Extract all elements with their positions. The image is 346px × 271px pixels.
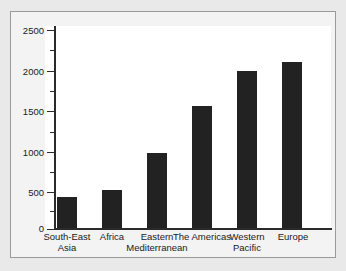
- x-label-line1: Western: [229, 231, 264, 242]
- x-axis-spine: [54, 228, 332, 230]
- x-label-line2: Pacific: [218, 242, 276, 253]
- bar-western-pacific: [237, 71, 257, 229]
- y-tick-mark-2500: [47, 30, 54, 31]
- y-minor-tick-1250: [50, 132, 54, 133]
- bar-eastern-mediterranean: [147, 153, 167, 229]
- y-minor-tick-1750: [50, 91, 54, 92]
- x-label-line1: Europe: [278, 231, 309, 242]
- y-minor-tick-750: [50, 172, 54, 173]
- y-tick-mark-0: [47, 229, 54, 230]
- y-minor-tick-250: [50, 211, 54, 212]
- y-tick-mark-500: [47, 192, 54, 193]
- bar-south-east-asia: [57, 197, 77, 230]
- y-tick-mark-1500: [47, 111, 54, 112]
- x-label-line2: Mediterranean: [121, 242, 193, 253]
- y-axis-spine: [54, 26, 56, 230]
- y-tick-mark-2000: [47, 71, 54, 72]
- y-axis-tick-labels: 2500 2000 1500 1000 500 0: [11, 12, 44, 259]
- figure-frame: 2500 2000 1500 1000 500 0 South-East Asi…: [10, 11, 336, 258]
- bar-europe: [282, 62, 302, 229]
- x-axis-category-labels: South-East Asia Africa Eastern Mediterra…: [45, 231, 335, 259]
- y-tick-mark-1000: [47, 152, 54, 153]
- bar-the-americas: [192, 106, 212, 229]
- x-label-europe: Europe: [264, 231, 322, 242]
- plot-area: [45, 26, 331, 229]
- y-tick-label-500: 500: [28, 188, 44, 198]
- y-tick-label-1000: 1000: [23, 148, 44, 158]
- y-minor-tick-2250: [50, 50, 54, 51]
- y-tick-label-2000: 2000: [23, 67, 44, 77]
- y-tick-label-1500: 1500: [23, 107, 44, 117]
- y-tick-label-2500: 2500: [23, 26, 44, 36]
- x-label-line2: Asia: [35, 242, 99, 253]
- bar-africa: [102, 190, 122, 229]
